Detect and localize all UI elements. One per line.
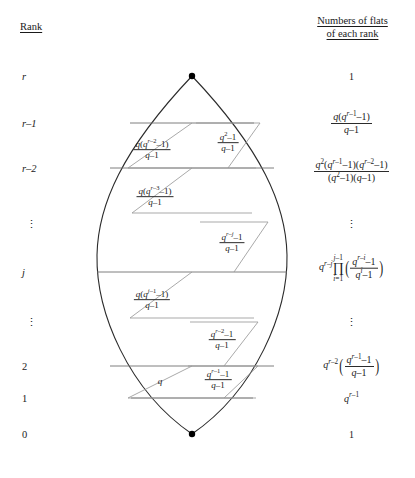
lattice-lens-figure xyxy=(0,0,415,478)
flat-q-r-minus-3: q(qr–3–1)q–1 xyxy=(137,186,174,208)
flat-q: q xyxy=(158,376,163,386)
bottom-vertex-dot xyxy=(189,431,195,437)
triangle-up-q xyxy=(128,366,256,398)
flat-q-j-minus-1: q(qj–1–1)q–1 xyxy=(134,289,170,311)
lens-outline xyxy=(97,76,287,434)
flat-q-r-minus-j: qr–j–1q–1 xyxy=(219,232,244,254)
flat-q-r-minus-1: qr–1–1q–1 xyxy=(205,369,232,391)
flat-q2-minus-1: q2–1q–1 xyxy=(218,132,239,154)
flat-q-r-minus-2-lower: qr–2–1q–1 xyxy=(209,329,236,351)
inner-triangles xyxy=(128,123,268,398)
flat-q-r-minus-2: q(qr–2–1)q–1 xyxy=(134,139,171,161)
rank-row-lines xyxy=(97,123,287,398)
top-vertex-dot xyxy=(189,73,195,79)
lattice-diagram-page: Rank Numbers of flats of each rank rr–1r… xyxy=(0,0,415,478)
